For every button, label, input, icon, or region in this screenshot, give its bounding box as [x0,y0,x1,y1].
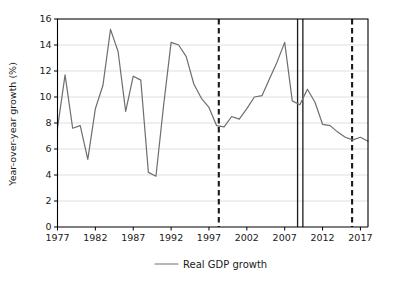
y-tick-label-4: 4 [45,169,51,180]
x-tick-label-1977: 1977 [45,232,69,243]
x-tick-label-2017: 2017 [348,232,372,243]
legend-label: Real GDP growth [183,259,267,270]
y-tick-label-8: 8 [45,117,51,128]
x-tick-label-1992: 1992 [159,232,183,243]
x-tick-label-1987: 1987 [121,232,145,243]
y-axis-title: Year-over-year growth (%) [7,62,18,187]
x-tick-label-1982: 1982 [83,232,107,243]
y-tick-label-0: 0 [45,221,51,232]
x-tick-label-2012: 2012 [310,232,334,243]
y-tick-label-14: 14 [39,39,51,50]
x-tick-label-2007: 2007 [273,232,297,243]
line-chart: 0246810121416 19771982198719921997200220… [0,0,393,281]
x-tick-label-1997: 1997 [197,232,221,243]
y-tick-label-6: 6 [45,143,51,154]
y-tick-label-10: 10 [39,91,51,102]
y-tick-label-12: 12 [39,65,51,76]
y-tick-label-16: 16 [39,13,51,24]
chart-container: 0246810121416 19771982198719921997200220… [0,0,393,281]
x-tick-label-2002: 2002 [235,232,259,243]
y-tick-label-2: 2 [45,195,51,206]
